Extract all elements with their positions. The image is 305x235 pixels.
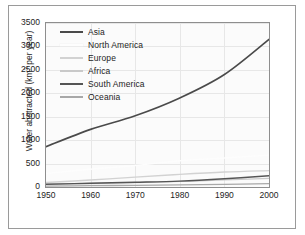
gridline-vertical xyxy=(269,23,270,187)
y-axis-tick-label: 0 xyxy=(35,182,40,191)
y-axis-tick-label: 500 xyxy=(26,158,40,167)
legend-swatch-icon xyxy=(60,57,83,59)
y-axis-tick-label: 2000 xyxy=(21,88,40,97)
x-axis-tick-label: 1960 xyxy=(81,190,100,200)
x-axis-tick-label: 1980 xyxy=(170,190,189,200)
series-line-north-america xyxy=(46,155,269,173)
legend-item-label: South America xyxy=(88,79,145,89)
legend-item: Africa xyxy=(60,65,145,77)
y-axis-tick-label: 3500 xyxy=(21,18,40,27)
x-axis-tick-label: 1970 xyxy=(126,190,145,200)
legend-item: Oceania xyxy=(60,91,145,103)
legend-swatch-icon xyxy=(60,96,83,98)
y-axis-tick-labels: 0500100015002000250030003500 xyxy=(8,22,43,188)
legend-item-label: Asia xyxy=(88,27,105,37)
x-axis-tick-label: 2000 xyxy=(260,190,279,200)
y-axis-tick-label: 2500 xyxy=(21,65,40,74)
legend: Asia North America Europe Africa South A… xyxy=(60,26,145,103)
y-axis-tick-label: 3000 xyxy=(21,41,40,50)
x-axis-tick-labels: 195019601970198019902000 xyxy=(45,190,270,206)
x-axis-tick-label: 1950 xyxy=(37,190,56,200)
legend-swatch-icon xyxy=(60,31,83,33)
legend-swatch-icon xyxy=(60,70,83,72)
figure-container: Water abstracted (km3 per year) 05001000… xyxy=(0,0,305,235)
legend-swatch-icon xyxy=(60,83,83,85)
plot-panel: Asia North America Europe Africa South A… xyxy=(45,22,270,188)
legend-item: Asia xyxy=(60,26,145,38)
legend-item-label: North America xyxy=(88,40,143,50)
x-axis-tick-label: 1990 xyxy=(215,190,234,200)
y-axis-tick-label: 1500 xyxy=(21,111,40,120)
legend-swatch-icon xyxy=(60,44,83,46)
legend-item: North America xyxy=(60,39,145,51)
legend-item: South America xyxy=(60,78,145,90)
legend-item: Europe xyxy=(60,52,145,64)
y-axis-tick-label: 1000 xyxy=(21,135,40,144)
legend-item-label: Africa xyxy=(88,66,110,76)
legend-item-label: Europe xyxy=(88,53,116,63)
series-line-europe xyxy=(46,171,269,183)
legend-item-label: Oceania xyxy=(88,92,120,102)
